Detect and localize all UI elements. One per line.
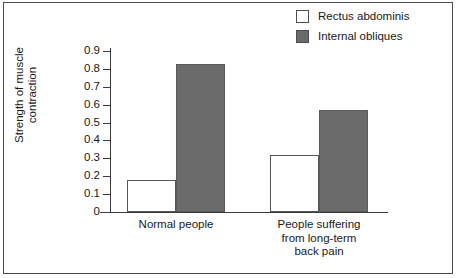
plot-area: 0.9 0.8 0.7 0.6 0.5 0.4 0.3 0.2 0.1 0 <box>0 0 456 278</box>
y-tick-label-0.1: 0.1 <box>70 188 100 199</box>
y-tick-0.5 <box>103 123 110 124</box>
y-tick-0.2 <box>103 176 110 177</box>
y-tick-0.3 <box>103 158 110 159</box>
y-tick-0.1 <box>103 194 110 195</box>
bar-rectus-abdominis-back-pain <box>270 155 319 212</box>
x-axis-line <box>100 212 388 213</box>
y-axis-title-line-1: Strength of muscle <box>13 47 25 143</box>
y-axis-line <box>110 48 111 213</box>
y-tick-0.8 <box>103 69 110 70</box>
y-tick-label-0: 0 <box>70 206 100 217</box>
y-tick-label-0.9: 0.9 <box>70 45 100 56</box>
x-category-label-back-pain-line-2: from long-term <box>259 232 379 246</box>
y-tick-0.7 <box>103 87 110 88</box>
x-category-label-back-pain-line-3: back pain <box>259 245 379 259</box>
chart-figure: Rectus abdominis Internal obliques 0.9 0… <box>0 0 456 278</box>
y-tick-0.4 <box>103 140 110 141</box>
y-tick-0.6 <box>103 105 110 106</box>
x-category-label-normal-people: Normal people <box>116 218 236 232</box>
y-axis-title-line-2: contraction <box>26 67 38 123</box>
x-category-label-back-pain: People suffering from long-term back pai… <box>259 218 379 259</box>
bar-rectus-abdominis-normal-people <box>127 180 176 212</box>
y-tick-label-0.4: 0.4 <box>70 134 100 145</box>
y-tick-label-0.7: 0.7 <box>70 81 100 92</box>
x-category-label-back-pain-line-1: People suffering <box>259 218 379 232</box>
y-tick-0 <box>103 212 110 213</box>
y-tick-label-0.8: 0.8 <box>70 63 100 74</box>
y-tick-label-0.5: 0.5 <box>70 117 100 128</box>
bar-internal-obliques-normal-people <box>176 64 225 212</box>
y-tick-label-0.6: 0.6 <box>70 99 100 110</box>
y-tick-label-0.3: 0.3 <box>70 152 100 163</box>
bar-internal-obliques-back-pain <box>319 110 368 212</box>
y-tick-0.9 <box>103 51 110 52</box>
y-tick-label-0.2: 0.2 <box>70 170 100 181</box>
x-category-label-normal-people-line-1: Normal people <box>116 218 236 232</box>
y-axis-title: Strength of muscle contraction <box>13 25 39 165</box>
